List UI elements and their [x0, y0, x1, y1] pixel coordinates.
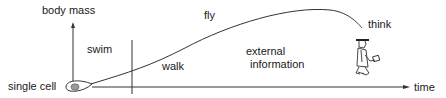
origin-label: single cell: [8, 80, 56, 92]
phase-label-fly: fly: [204, 9, 215, 21]
arrow-right-icon: [403, 85, 410, 89]
evolution-diagram: body mass swim walk fly external informa…: [0, 0, 446, 98]
walking-scholar-icon: [356, 39, 380, 75]
phase-label-walk: walk: [162, 60, 184, 72]
x-axis: [92, 85, 410, 89]
phase-label-swim: swim: [87, 43, 112, 55]
phase-label-external: external: [246, 45, 285, 57]
cell-icon: [66, 81, 92, 91]
y-axis: [71, 22, 75, 86]
phase-label-think: think: [368, 18, 391, 30]
y-axis-label: body mass: [42, 4, 95, 16]
arrow-up-icon: [71, 22, 75, 28]
phase-label-information: information: [250, 58, 304, 70]
x-axis-label: time: [414, 81, 435, 93]
